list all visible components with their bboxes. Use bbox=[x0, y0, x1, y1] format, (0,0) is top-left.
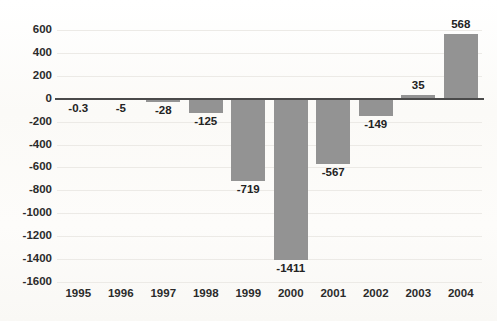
gridline bbox=[57, 282, 482, 283]
y-axis-labels: 6004002000-200-400-600-800-1000-1200-140… bbox=[0, 30, 52, 282]
gridline bbox=[57, 259, 482, 260]
y-axis-tick-label: 0 bbox=[0, 93, 52, 105]
gridline bbox=[57, 190, 482, 191]
gridline bbox=[57, 167, 482, 168]
bar-value-label: -5 bbox=[116, 103, 126, 115]
y-axis-tick-label: -600 bbox=[0, 162, 52, 174]
y-axis-tick-label: 400 bbox=[0, 47, 52, 59]
y-axis-tick-label: -800 bbox=[0, 185, 52, 197]
chart-screenshot: 6004002000-200-400-600-800-1000-1200-140… bbox=[0, 0, 497, 321]
bar-value-label: -28 bbox=[155, 105, 172, 117]
bar-value-label: -0.3 bbox=[68, 103, 88, 115]
x-axis-labels: 1995199619971998199920002001200220032004 bbox=[57, 288, 482, 306]
plot-area: -0.3-5-28-125-719-1411-567-14935568 bbox=[57, 30, 482, 282]
x-axis-tick-label: 2003 bbox=[405, 288, 431, 300]
gridline bbox=[57, 145, 482, 146]
y-axis-tick-label: -400 bbox=[0, 139, 52, 151]
zero-axis-line bbox=[55, 98, 484, 100]
gridline bbox=[57, 122, 482, 123]
y-axis-tick-label: 200 bbox=[0, 70, 52, 82]
bar bbox=[274, 99, 308, 261]
bar-value-label: -567 bbox=[322, 167, 345, 179]
bar-value-label: -125 bbox=[194, 116, 217, 128]
y-axis-tick-label: -1200 bbox=[0, 230, 52, 242]
bar bbox=[444, 34, 478, 99]
bar bbox=[189, 99, 223, 113]
bar-value-label: -1411 bbox=[276, 263, 305, 275]
bar bbox=[359, 99, 393, 116]
gridline bbox=[57, 236, 482, 237]
x-axis-tick-label: 1996 bbox=[108, 288, 134, 300]
gridline bbox=[57, 213, 482, 214]
gridline bbox=[57, 30, 482, 31]
gridline bbox=[57, 76, 482, 77]
gridline bbox=[57, 53, 482, 54]
bar-value-label: 568 bbox=[451, 19, 470, 31]
x-axis-tick-label: 2002 bbox=[363, 288, 389, 300]
y-axis-tick-label: 600 bbox=[0, 24, 52, 36]
y-axis-tick-label: -200 bbox=[0, 116, 52, 128]
bar-value-label: -719 bbox=[237, 184, 260, 196]
x-axis-tick-label: 2000 bbox=[278, 288, 304, 300]
x-axis-tick-label: 1999 bbox=[235, 288, 261, 300]
x-axis-tick-label: 1995 bbox=[65, 288, 91, 300]
y-axis-tick-label: -1000 bbox=[0, 208, 52, 220]
bar-value-label: 35 bbox=[412, 80, 425, 92]
y-axis-tick-label: -1600 bbox=[0, 276, 52, 288]
x-axis-tick-label: 1998 bbox=[193, 288, 219, 300]
x-axis-tick-label: 2001 bbox=[320, 288, 346, 300]
bar bbox=[316, 99, 350, 164]
x-axis-tick-label: 1997 bbox=[150, 288, 176, 300]
bar bbox=[231, 99, 265, 181]
x-axis-tick-label: 2004 bbox=[448, 288, 474, 300]
y-axis-tick-label: -1400 bbox=[0, 253, 52, 265]
bar-value-label: -149 bbox=[364, 119, 387, 131]
